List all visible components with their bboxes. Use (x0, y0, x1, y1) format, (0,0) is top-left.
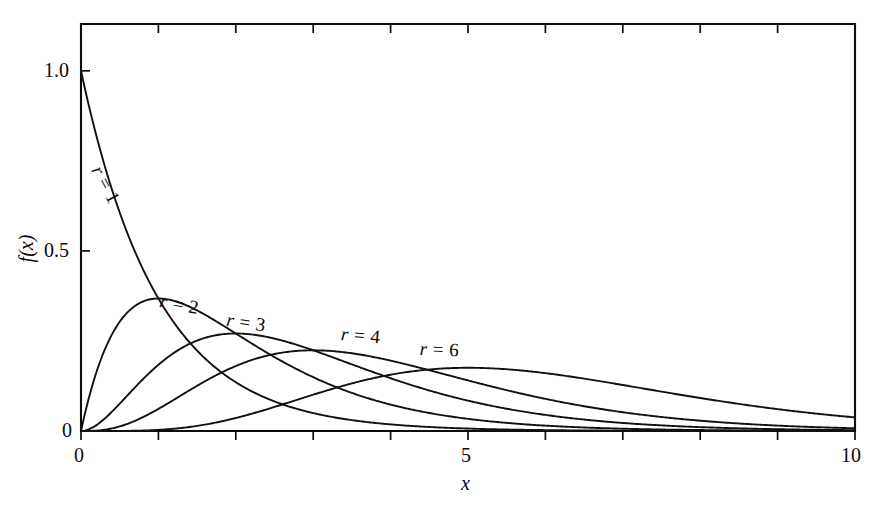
ticks-group (81, 24, 855, 440)
curve-label-r3-value: = 3 (238, 311, 267, 335)
x-tick-label-10: 10 (841, 444, 861, 467)
axis-left-bottom (81, 24, 855, 431)
y-tick-label-1.0: 1.0 (44, 59, 69, 82)
x-tick-label-5: 5 (461, 444, 471, 467)
curve-label-r6-value: = 6 (432, 338, 459, 360)
x-axis-title: x (461, 472, 470, 495)
curve-r=1 (81, 71, 855, 431)
curve-r=6 (81, 368, 855, 431)
axes-group (81, 24, 855, 431)
curve-label-r3-var: r (225, 309, 236, 331)
y-tick-label-0: 0 (62, 419, 72, 442)
curve-label-r6: r = 6 (419, 338, 459, 361)
curve-label-r6-var: r (419, 338, 428, 359)
x-tick-label-0: 0 (74, 444, 84, 467)
y-axis-title: f(x) (15, 219, 38, 279)
curve-label-r4: r = 4 (340, 323, 381, 348)
curve-label-r4-var: r (340, 323, 350, 345)
plot-canvas (0, 0, 885, 511)
curve-r=2 (81, 299, 855, 432)
curve-r=3 (81, 334, 855, 431)
curve-label-r4-value: = 4 (353, 324, 381, 347)
y-tick-label-0.5: 0.5 (44, 239, 69, 262)
curves-group (81, 71, 855, 431)
curve-label-r2-value: = 2 (171, 293, 201, 319)
gamma-density-figure: 1.0 0.5 0 0 5 10 f(x) x r = 1 r = 2 r = … (0, 0, 885, 511)
